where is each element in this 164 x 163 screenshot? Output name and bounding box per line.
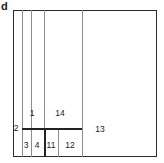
divider-h-128 — [22, 128, 82, 130]
partition-figure: d 114213341112 — [0, 0, 164, 163]
region-label-2: 2 — [14, 124, 19, 133]
region-label-11: 11 — [47, 141, 56, 150]
divider-v-31 — [31, 10, 32, 157]
region-label-4: 4 — [35, 141, 40, 150]
region-label-3: 3 — [24, 141, 29, 150]
divider-v-82 — [82, 10, 83, 157]
partition-frame — [13, 10, 157, 157]
region-label-13: 13 — [95, 125, 104, 134]
region-label-14: 14 — [55, 109, 64, 118]
divider-v-44-lower — [44, 128, 46, 157]
divider-v-44-upper — [44, 10, 45, 128]
region-label-1: 1 — [30, 109, 35, 118]
divider-v-58 — [58, 128, 59, 157]
panel-letter: d — [1, 0, 8, 12]
region-label-12: 12 — [65, 141, 74, 150]
divider-v-22 — [22, 10, 23, 157]
